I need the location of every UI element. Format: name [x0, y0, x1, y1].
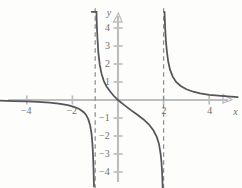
x-tick-label: −4 — [21, 106, 32, 116]
graph-canvas — [0, 0, 242, 188]
axes-group — [8, 13, 232, 182]
x-tick-label: 2 — [162, 106, 167, 116]
curve-branch-right — [165, 12, 238, 97]
y-tick-label: 1 — [105, 77, 110, 87]
y-tick-label: −1 — [99, 113, 110, 123]
y-tick-label: 4 — [105, 23, 110, 33]
x-tick-label: 4 — [207, 106, 212, 116]
y-axis-name-label: y — [107, 8, 111, 18]
vertical-asymptotes — [95, 8, 163, 188]
y-tick-label: −2 — [99, 131, 110, 141]
y-tick-label: 3 — [105, 41, 110, 51]
curve-branch-left — [0, 101, 94, 187]
figure-rational-function-graph: −4−224−4−3−2−11234yx — [0, 0, 242, 188]
x-tick-label: −2 — [66, 106, 77, 116]
y-tick-label: 2 — [105, 59, 110, 69]
y-tick-label: −4 — [99, 167, 110, 177]
y-tick-label: −3 — [99, 149, 110, 159]
x-axis-name-label: x — [233, 107, 237, 117]
